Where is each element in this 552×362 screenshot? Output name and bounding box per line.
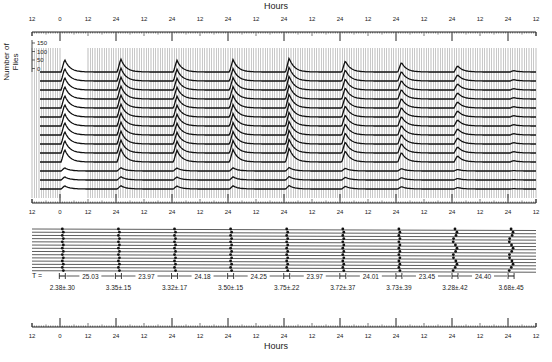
- interval-label: 23.45: [419, 273, 436, 280]
- gate-dot: [454, 244, 457, 247]
- axis-tick-label: 24: [393, 209, 400, 215]
- axis-tick-label: 24: [337, 333, 344, 339]
- eclosion-traces: [32, 48, 536, 198]
- axis-tick-label: 12: [421, 209, 428, 215]
- axis-tick-label: 24: [225, 333, 232, 339]
- axis-tick-label: 12: [533, 16, 540, 22]
- axis-tick-label: 24: [113, 16, 120, 22]
- gate-dot: [61, 240, 64, 243]
- axis-tick-label: 24: [505, 16, 512, 22]
- interval-label: 24.18: [194, 273, 211, 280]
- gate-dot: [286, 256, 289, 259]
- gate-dot: [285, 228, 288, 231]
- gate-dot: [397, 228, 400, 231]
- axis-tick-label: 12: [421, 16, 428, 22]
- axis-tick-label: 12: [421, 333, 428, 339]
- eclosion-trace: [40, 168, 536, 171]
- axis-tick-label: 12: [309, 209, 316, 215]
- axis-tick-label: 24: [393, 16, 400, 22]
- axis-tick-label: 24: [449, 209, 456, 215]
- gate-dot: [61, 266, 64, 269]
- gate-dot: [62, 256, 65, 259]
- gate-row-line: [32, 251, 536, 253]
- gate-dot: [174, 269, 177, 272]
- gate-dot: [454, 260, 457, 263]
- gate-dot: [174, 263, 177, 266]
- gate-dot: [118, 263, 121, 266]
- axis-tick-label: 24: [281, 333, 288, 339]
- gate-row-line: [32, 245, 536, 247]
- gate-dot: [454, 228, 457, 231]
- gate-dot: [512, 247, 515, 250]
- axis-tick-label: 12: [141, 16, 148, 22]
- axis-tick-label: 24: [225, 209, 232, 215]
- gate-dot: [342, 250, 345, 253]
- gate-dot: [61, 228, 64, 231]
- gate-dot: [117, 266, 120, 269]
- gate-dot: [454, 250, 457, 253]
- gate-dot: [511, 234, 514, 237]
- axis-tick-label: 12: [477, 333, 484, 339]
- gate-dot: [511, 260, 514, 263]
- gate-dot: [118, 256, 121, 259]
- gate-width-label: 3.75±.22: [274, 284, 300, 291]
- axis-tick-label: 24: [337, 209, 344, 215]
- gate-dot: [342, 231, 345, 234]
- gate-dot: [117, 240, 120, 243]
- top-axis-title: Hours: [264, 1, 289, 11]
- axis-tick-label: 12: [141, 333, 148, 339]
- gate-dot: [508, 269, 511, 272]
- gate-dot: [510, 250, 513, 253]
- gate-dot: [508, 240, 511, 243]
- gate-dot: [508, 256, 511, 259]
- gate-dot: [229, 234, 232, 237]
- gate-dot: [452, 256, 455, 259]
- gate-dot: [173, 234, 176, 237]
- axis-tick-label: 12: [533, 209, 540, 215]
- axis-tick-label: 12: [309, 16, 316, 22]
- gate-row-line: [32, 261, 536, 263]
- axis-tick-label: 12: [253, 333, 260, 339]
- interval-label: 24.01: [363, 273, 380, 280]
- gate-dot: [455, 234, 458, 237]
- axis-tick-label: 24: [113, 209, 120, 215]
- axis-tick-label: 12: [197, 333, 204, 339]
- gate-row-line: [32, 271, 536, 273]
- gate-dot: [342, 269, 345, 272]
- gate-dot: [174, 256, 177, 259]
- gate-dot: [230, 263, 233, 266]
- gate-width-label: 3.72±.37: [330, 284, 356, 291]
- gate-dot: [397, 234, 400, 237]
- axis-tick-label: 24: [393, 333, 400, 339]
- gate-dot: [117, 253, 120, 256]
- middle-time-axis: 1201224122412241224122412241224122412: [29, 194, 540, 215]
- gate-dot: [62, 231, 65, 234]
- gate-dot: [173, 260, 176, 263]
- gate-dot: [397, 247, 400, 250]
- gate-dot: [286, 269, 289, 272]
- gate-dot: [286, 244, 289, 247]
- gate-dot: [452, 240, 455, 243]
- gate-dot: [174, 250, 177, 253]
- axis-tick-label: 12: [253, 16, 260, 22]
- axis-tick-label: 24: [169, 209, 176, 215]
- gate-dot: [230, 231, 233, 234]
- gate-dot: [118, 250, 121, 253]
- gate-dot: [398, 250, 401, 253]
- gate-dot: [285, 260, 288, 263]
- axis-tick-label: 24: [505, 209, 512, 215]
- axis-tick-label: 12: [29, 209, 36, 215]
- gate-dot: [456, 247, 459, 250]
- y-axis-title-line2: Flies: [11, 54, 20, 71]
- gate-dot: [286, 250, 289, 253]
- interval-label: 23.97: [307, 273, 324, 280]
- gate-dot: [286, 237, 289, 240]
- gate-dot: [117, 234, 120, 237]
- gate-dot: [173, 240, 176, 243]
- axis-tick-label: 12: [85, 209, 92, 215]
- gate-dot: [61, 247, 64, 250]
- gate-dot: [454, 266, 457, 269]
- gate-dot: [342, 244, 345, 247]
- y-axis-title: Number of Flies: [2, 43, 20, 81]
- gate-dot: [230, 237, 233, 240]
